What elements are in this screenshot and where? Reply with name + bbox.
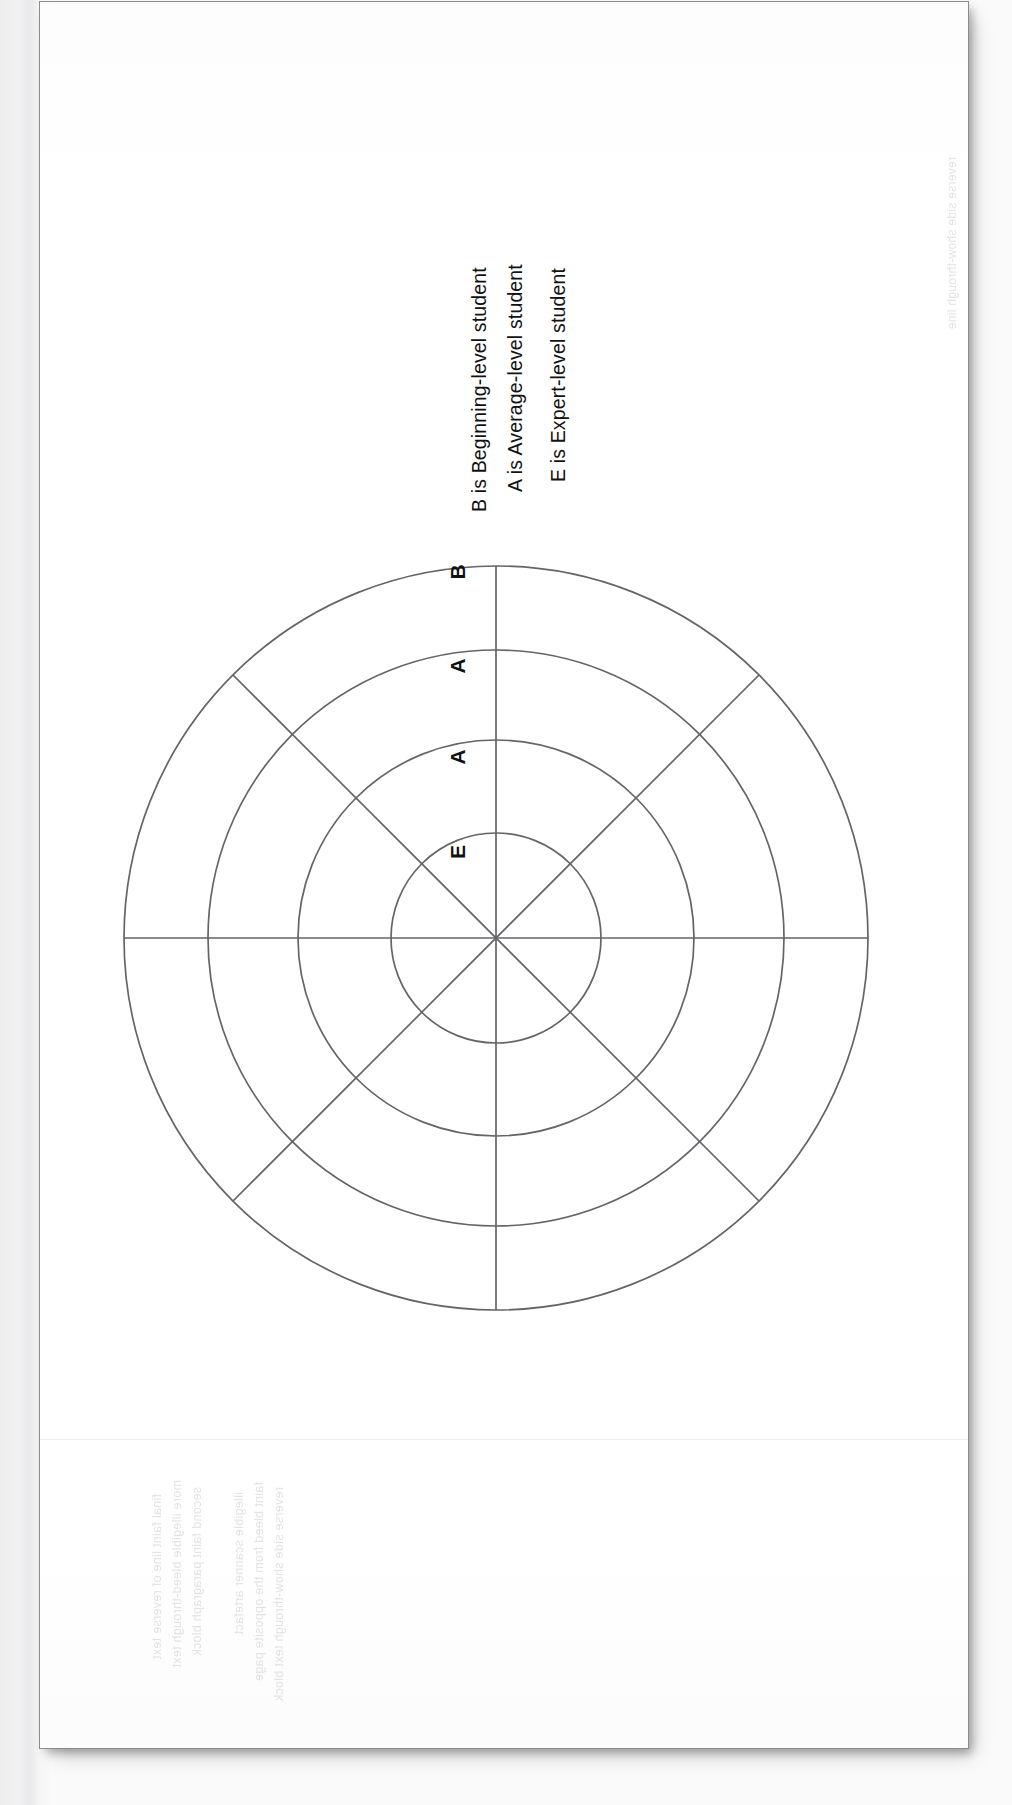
concentric-circle-diagram: B A A E [80, 522, 920, 1362]
ring-label-a-outer: A [446, 658, 469, 673]
showthrough-text-bottom-4: more illegible bleed-through text [170, 1480, 184, 1668]
ring-label-b: B [446, 564, 469, 579]
ring-label-a-inner: A [446, 749, 469, 764]
legend: B is Beginning-level student A is Averag… [446, 202, 566, 522]
diagram-svg: B A A E [80, 522, 920, 1362]
diagram-spokes [124, 566, 868, 1310]
showthrough-text-bottom-3: second faint paragraph block [190, 1487, 204, 1656]
showthrough-text-bottom-0: reverse side show-through text block [272, 1487, 286, 1701]
page-horizontal-rule [40, 1439, 968, 1440]
legend-item-expert: E is Expert-level student [547, 268, 570, 482]
showthrough-text-bottom-1: faint bleed from the opposite page [252, 1482, 266, 1681]
legend-item-beginning: B is Beginning-level student [468, 267, 491, 512]
scan-canvas: reverse side show-through line B is Begi… [0, 0, 1012, 1805]
showthrough-text-bottom-2: illegible scanner artefact [232, 1492, 246, 1635]
diagram-ring-labels: B A A E [446, 564, 469, 859]
legend-item-average: A is Average-level student [504, 264, 527, 492]
ring-label-e: E [446, 845, 469, 859]
showthrough-text-bottom-5: final faint line of reverse text [150, 1494, 164, 1659]
scanned-page: reverse side show-through line B is Begi… [39, 1, 969, 1749]
showthrough-text-top-0: reverse side show-through line [945, 157, 959, 329]
